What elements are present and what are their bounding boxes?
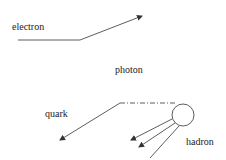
electron-label: electron (12, 22, 44, 32)
hadron-label: hadron (186, 137, 214, 147)
hadron-circle (172, 104, 194, 126)
quark-label: quark (45, 109, 68, 119)
photon-label: photon (115, 65, 143, 75)
hadron-jets (131, 119, 179, 158)
